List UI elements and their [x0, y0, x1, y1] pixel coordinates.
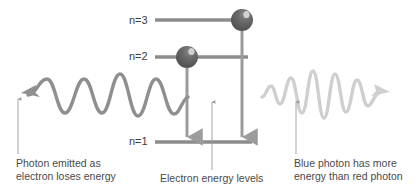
red-photon-wave — [21, 74, 188, 116]
diagram-canvas: n=3 n=2 n=1 Photon emitted as electron l… — [0, 0, 417, 194]
blue-photon-arrowhead-icon — [371, 84, 390, 96]
caption-red-photon: Photon emitted as electron loses energy — [16, 157, 116, 183]
electron-n2 — [176, 46, 198, 68]
caption-blue-photon: Blue photon has more energy than red pho… — [294, 157, 403, 183]
caption-blue-photon-line1: Blue photon has more — [294, 157, 403, 170]
energy-level-lines — [155, 20, 252, 142]
caption-red-photon-line2: electron loses energy — [16, 170, 116, 183]
caption-energy-levels-line1: Electron energy levels — [160, 172, 263, 185]
blue-photon-wave — [262, 71, 390, 118]
electron-highlight-icon — [243, 11, 249, 18]
energy-level-label-n2: n=2 — [129, 51, 148, 62]
transition-arrows — [187, 31, 242, 137]
energy-level-label-n3: n=3 — [129, 15, 148, 26]
caption-energy-levels: Electron energy levels — [160, 172, 263, 185]
electron-highlight-icon — [188, 48, 194, 55]
caption-red-photon-line1: Photon emitted as — [16, 157, 116, 170]
energy-level-label-n1: n=1 — [129, 136, 148, 147]
electron-n3 — [231, 9, 253, 31]
caption-blue-photon-line2: energy than red photon — [294, 170, 403, 183]
